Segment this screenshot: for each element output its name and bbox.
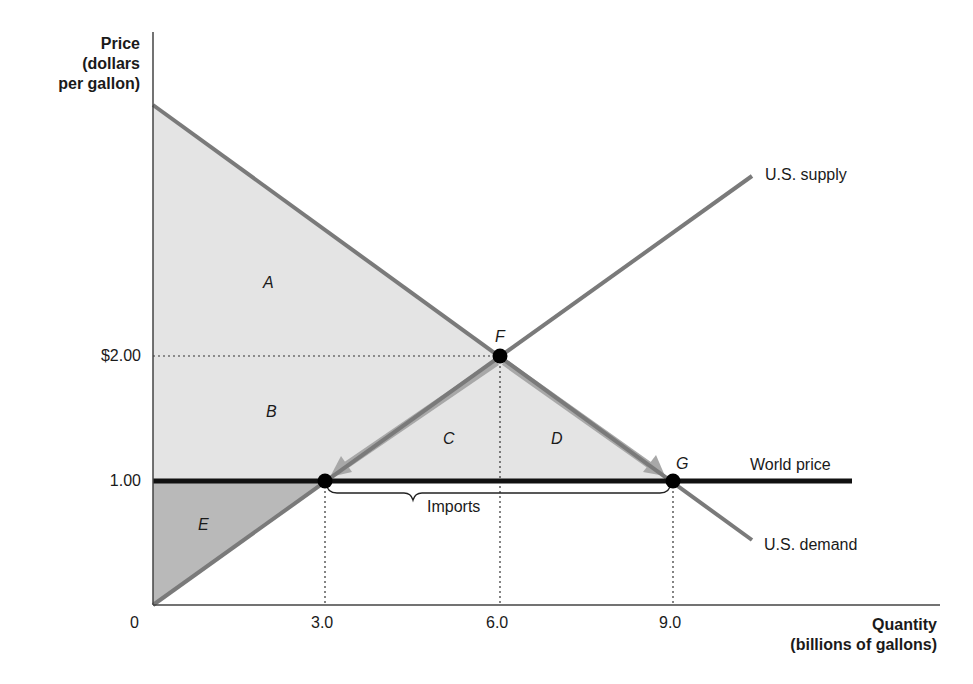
area-e-label: E bbox=[198, 516, 209, 534]
y-axis-title-line-1: Price bbox=[58, 34, 140, 54]
supply-label: U.S. supply bbox=[765, 166, 847, 184]
area-b-label: B bbox=[266, 403, 277, 421]
x-tick-origin: 0 bbox=[130, 614, 139, 632]
world-price-label: World price bbox=[750, 456, 831, 474]
imports-label: Imports bbox=[427, 498, 480, 516]
y-axis-title-line-3: per gallon) bbox=[58, 74, 140, 94]
point-g bbox=[666, 474, 681, 489]
x-tick-9: 9.0 bbox=[659, 614, 681, 632]
area-a-label: A bbox=[263, 274, 274, 292]
imports-brace bbox=[327, 484, 670, 500]
y-tick-1: 1.00 bbox=[110, 472, 141, 490]
point-g-label: G bbox=[676, 455, 688, 473]
x-axis-title: Quantity (billions of gallons) bbox=[790, 615, 937, 655]
area-c-label: C bbox=[443, 430, 455, 448]
x-axis-title-line-1: Quantity bbox=[790, 615, 937, 635]
chart-canvas bbox=[0, 0, 973, 684]
y-axis-title: Price (dollars per gallon) bbox=[58, 34, 140, 94]
x-axis-title-line-2: (billions of gallons) bbox=[790, 635, 937, 655]
x-tick-6: 6.0 bbox=[486, 614, 508, 632]
y-axis-title-line-2: (dollars bbox=[58, 54, 140, 74]
x-tick-3: 3.0 bbox=[311, 614, 333, 632]
demand-label: U.S. demand bbox=[764, 536, 857, 554]
area-d-label: D bbox=[551, 430, 563, 448]
point-f bbox=[493, 349, 508, 364]
point-f-label: F bbox=[495, 328, 505, 346]
point-domestic-supply bbox=[318, 474, 333, 489]
y-tick-2: $2.00 bbox=[101, 347, 141, 365]
